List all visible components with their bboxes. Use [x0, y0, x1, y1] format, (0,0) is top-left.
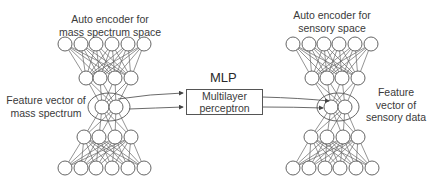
right-network-node [349, 161, 363, 175]
arrow-mlp-to-right-bottom [262, 107, 323, 108]
left-network-title: Auto encoder for mass spectrum space [58, 13, 162, 38]
right-network-node [320, 130, 334, 144]
left-feature-line1: Feature vector of [4, 94, 88, 107]
right-network-node [351, 130, 365, 144]
right-title-line2: sensory space [290, 22, 374, 35]
left-network-node [74, 161, 88, 175]
left-title-line2: mass spectrum space [58, 26, 162, 39]
left-network-node [124, 130, 138, 144]
right-network-node [336, 130, 350, 144]
left-network-node [89, 37, 103, 51]
right-network-node [351, 71, 365, 85]
left-network-node [137, 161, 151, 175]
left-network-node [121, 161, 135, 175]
right-network-node [286, 161, 300, 175]
arrow-left-to-mlp-top [118, 93, 183, 99]
mlp-box-line2: perceptron [187, 102, 262, 115]
mlp-title: MLP [210, 70, 237, 85]
left-title-line1: Auto encoder for [58, 13, 162, 26]
right-network-node [365, 161, 379, 175]
right-title-line1: Auto encoder for [290, 9, 374, 22]
left-network-node [95, 100, 109, 114]
right-network-node [332, 37, 346, 51]
left-network-node [108, 71, 122, 85]
right-network-node [302, 37, 316, 51]
right-network-node [305, 71, 319, 85]
right-network-node [348, 37, 362, 51]
left-feature-label: Feature vector of mass spectrum [4, 94, 88, 119]
right-network-node [335, 71, 349, 85]
left-network-node [109, 100, 123, 114]
right-feature-line1: Feature [364, 86, 428, 99]
right-feature-label: Feature vector of sensory data [364, 86, 428, 124]
right-network-title: Auto encoder for sensory space [290, 9, 374, 34]
left-network-node [79, 71, 93, 85]
left-network-node [93, 71, 107, 85]
left-network-node [74, 37, 88, 51]
left-network-node [58, 161, 72, 175]
left-network-node [105, 161, 119, 175]
right-network-node [364, 37, 378, 51]
right-feature-line3: sensory data [364, 111, 428, 124]
right-network-node [318, 161, 332, 175]
right-network-node [333, 161, 347, 175]
left-feature-line2: mass spectrum [4, 107, 88, 120]
right-network-node [320, 71, 334, 85]
left-network-node [77, 130, 91, 144]
arrow-left-to-mlp-bottom [129, 107, 183, 109]
mlp-box-line1: Multilayer [187, 90, 262, 103]
right-network-node [324, 100, 338, 114]
left-network-node [121, 37, 135, 51]
right-network-node [304, 130, 318, 144]
right-network-node [286, 37, 300, 51]
mlp-box: Multilayer perceptron [186, 89, 263, 115]
left-network-node [89, 161, 103, 175]
right-network-node [317, 37, 331, 51]
left-network-node [108, 130, 122, 144]
left-network-node [105, 37, 119, 51]
left-network-node [137, 37, 151, 51]
right-feature-line2: vector of [364, 99, 428, 112]
arrow-mlp-to-right-top [262, 97, 329, 101]
right-network-node [302, 161, 316, 175]
left-network-node [58, 37, 72, 51]
left-network-node [124, 71, 138, 85]
right-network-node [338, 100, 352, 114]
left-network-node [92, 130, 106, 144]
